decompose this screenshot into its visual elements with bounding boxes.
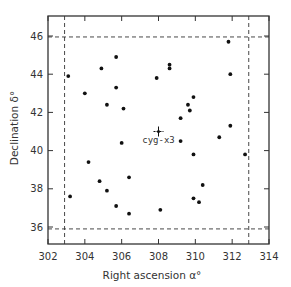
y-tick-label: 44 — [30, 69, 43, 80]
x-tick-label: 312 — [223, 251, 242, 262]
data-point — [197, 200, 201, 204]
x-tick-label: 310 — [186, 251, 205, 262]
y-tick-label: 46 — [30, 31, 43, 42]
x-tick-label: 308 — [149, 251, 168, 262]
data-point — [179, 139, 183, 143]
data-point — [168, 67, 172, 71]
x-tick-label: 314 — [259, 251, 278, 262]
y-axis-title: Declination δ° — [8, 91, 20, 165]
data-point — [114, 204, 118, 208]
data-point — [114, 55, 118, 59]
data-point — [228, 124, 232, 128]
data-point — [188, 109, 192, 113]
y-tick-label: 40 — [30, 145, 43, 156]
data-point — [168, 63, 172, 67]
data-point — [68, 195, 72, 199]
data-point — [105, 103, 109, 107]
x-tick-label: 304 — [75, 251, 94, 262]
y-tick-label: 38 — [30, 183, 43, 194]
data-point — [83, 91, 87, 95]
data-point — [155, 76, 159, 80]
x-tick-label: 302 — [38, 251, 57, 262]
data-point — [120, 141, 124, 145]
data-point — [192, 153, 196, 157]
data-point — [192, 95, 196, 99]
data-point — [105, 189, 109, 193]
cyg-x3-annotation: cyg-x3 — [142, 127, 175, 145]
data-point — [114, 86, 118, 90]
data-point — [243, 153, 247, 157]
x-tick-label: 306 — [112, 251, 131, 262]
annotation-label: cyg-x3 — [142, 135, 175, 145]
x-axis-title: Right ascension α° — [103, 269, 202, 281]
data-points — [66, 40, 247, 216]
data-point — [127, 175, 131, 179]
data-point — [192, 196, 196, 200]
data-point — [158, 208, 162, 212]
y-tick-label: 42 — [30, 107, 43, 118]
data-point — [179, 116, 183, 120]
data-point — [228, 72, 232, 76]
data-point — [66, 74, 70, 78]
y-tick-label: 36 — [30, 222, 43, 233]
scatter-chart: 302304306308310312314363840424446 cyg-x3… — [0, 0, 291, 287]
data-point — [100, 67, 104, 71]
data-point — [122, 107, 126, 111]
data-point — [217, 135, 221, 139]
data-point — [201, 183, 205, 187]
data-point — [227, 40, 231, 44]
data-point — [127, 212, 131, 216]
data-point — [186, 103, 190, 107]
data-point — [98, 179, 102, 183]
data-point — [87, 160, 91, 164]
